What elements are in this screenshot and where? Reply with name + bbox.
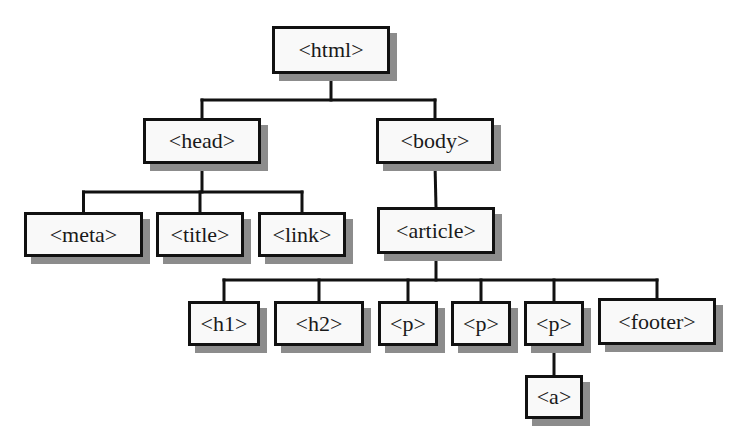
node-title: <title> bbox=[156, 212, 244, 257]
node-footer: <footer> bbox=[598, 298, 716, 345]
node-html: <html> bbox=[272, 26, 390, 74]
node-p1: <p> bbox=[378, 301, 438, 346]
node-a: <a> bbox=[525, 375, 583, 419]
dom-tree-diagram: <html><head><body><meta><title><link><ar… bbox=[0, 0, 745, 446]
node-p2: <p> bbox=[451, 301, 511, 346]
node-head: <head> bbox=[143, 118, 261, 164]
node-h2: <h2> bbox=[274, 301, 364, 346]
node-h1: <h1> bbox=[188, 301, 260, 346]
node-p3: <p> bbox=[524, 301, 584, 346]
node-body: <body> bbox=[376, 118, 494, 164]
node-article: <article> bbox=[377, 207, 495, 254]
node-meta: <meta> bbox=[24, 212, 143, 257]
node-link: <link> bbox=[258, 212, 346, 257]
